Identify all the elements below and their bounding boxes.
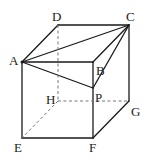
label-a: A <box>9 53 19 68</box>
label-g: G <box>131 104 140 119</box>
vertex-a-dot <box>21 61 24 64</box>
segment-ac <box>22 25 129 62</box>
label-p: P <box>95 90 102 105</box>
label-f: F <box>89 140 96 155</box>
cube-diagram: A D C B P H G E F <box>0 0 145 159</box>
label-e: E <box>14 140 22 155</box>
label-h: H <box>46 92 55 107</box>
label-c: C <box>126 9 135 24</box>
label-d: D <box>52 9 61 24</box>
label-b: B <box>96 63 105 78</box>
edge-fg <box>93 101 129 138</box>
